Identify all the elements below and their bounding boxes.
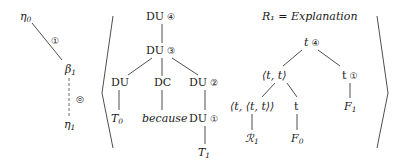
edge-label-circle: ◎ <box>76 94 84 104</box>
node-eta1: η1 <box>64 118 75 132</box>
type-left-right: t <box>294 100 299 113</box>
diagram-canvas: η0 ① β1 ◎ η1 DU④ DU③ DU T0 DC because DU… <box>0 0 405 161</box>
left-chain: η0 ① β1 ◎ η1 <box>20 10 84 132</box>
du-child-2-sub: DU① <box>189 112 218 125</box>
type-left: ⟨t, t⟩ <box>262 69 286 82</box>
right-angle-bracket <box>377 16 388 148</box>
type-left-left: ⟨t, ⟨t, t⟩⟩ <box>230 100 274 113</box>
du-tree: DU④ DU③ DU T0 DC because DU② DU① T1 <box>111 10 218 160</box>
du-child-0: DU <box>111 76 129 89</box>
type-tree-title: R₁ = Explanation <box>261 10 358 23</box>
leaf-R1: ℛ1 <box>245 132 259 146</box>
du-child-2: DU② <box>189 76 218 89</box>
edge-l1-c2 <box>172 58 198 75</box>
leaf-T0: T0 <box>111 112 123 126</box>
leaf-because: because <box>142 112 188 125</box>
type-right: t① <box>342 69 358 82</box>
leaf-F0: F0 <box>290 132 304 146</box>
leaf-T1: T1 <box>198 146 210 160</box>
type-tree: R₁ = Explanation t④ ⟨t, t⟩ t① F1 ⟨t, ⟨t,… <box>230 10 358 146</box>
type-root: t④ <box>304 36 320 49</box>
du-root: DU④ <box>146 10 175 23</box>
dc-child-1: DC <box>154 76 171 89</box>
leaf-F1: F1 <box>343 100 356 114</box>
du-level1: DU③ <box>146 44 175 57</box>
edge-root-right <box>318 50 340 66</box>
edge-left-lr <box>287 83 297 97</box>
edge-l1-c0 <box>128 58 152 75</box>
node-eta0: η0 <box>20 10 32 24</box>
edge-root-left <box>283 50 302 66</box>
edge-label-1: ① <box>51 36 59 46</box>
node-beta1: β1 <box>64 63 76 77</box>
edge-left-ll <box>262 83 275 97</box>
